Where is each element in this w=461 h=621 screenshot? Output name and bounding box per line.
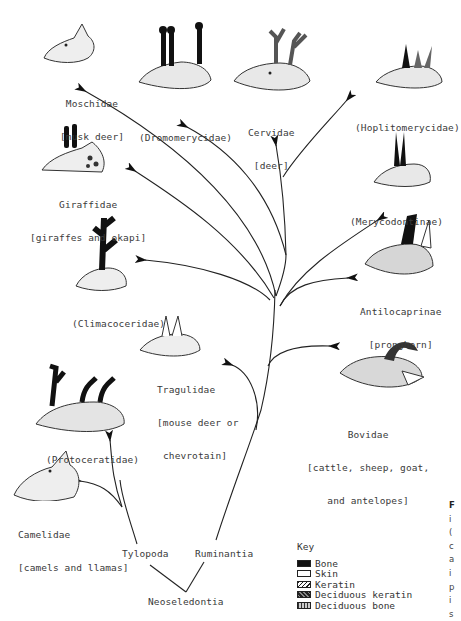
taxon-name: Moschidae [60,98,124,109]
taxon-camelidae: Camelidae [camels and llamas] [18,507,129,595]
taxon-cervidae: Cervidae [deer] [248,105,295,193]
protoceratidae-head-illustration [34,362,130,434]
taxon-name: Bovidae [307,429,429,440]
taxon-common-name: [pronghorn] [360,339,441,350]
dromomerycidae-head-illustration [133,22,217,94]
legend-item-keratin: Keratin [297,579,412,590]
skin-swatch-icon [297,570,311,577]
taxon-name: Cervidae [248,127,295,138]
caption-fragment: ( [449,526,455,540]
deciduous-keratin-swatch-icon [297,591,311,598]
deciduous-bone-swatch-icon [297,602,311,609]
taxon-merycodontinae: (Merycodontinae) [350,194,443,249]
legend: Key Bone Skin Keratin Deciduous keratin … [297,541,412,611]
taxon-hoplitomerycidae: (Hoplitomerycidae) [355,100,460,155]
taxon-dromomerycidae: (Dromomerycidae) [139,110,232,165]
taxon-common-name: [camels and llamas] [18,562,129,573]
taxon-giraffidae: Giraffidae [giraffes and okapi] [30,177,146,265]
taxon-common-name-cont: chevrotain] [157,450,238,461]
taxon-common-name: [mouse deer or [157,417,238,428]
keratin-swatch-icon [297,581,311,588]
legend-label: Skin [315,568,338,579]
legend-item-skin: Skin [297,569,412,580]
caption-fragment: c [449,540,455,554]
legend-label: Deciduous bone [315,600,395,611]
taxon-name: Tragulidae [157,384,238,395]
taxon-tragulidae: Tragulidae [mouse deer or chevrotain] [157,362,238,483]
branch-root-ruminantia [186,562,204,592]
branch-bovidae [268,346,330,366]
taxon-name: Antilocaprinae [360,306,441,317]
taxon-name: (Hoplitomerycidae) [355,122,460,133]
taxon-name: Camelidae [18,529,129,540]
taxon-common-name-cont: and antelopes] [307,495,429,506]
taxon-moschidae: Moschidae [musk deer] [60,76,124,164]
taxon-common-name: [deer] [248,160,295,171]
caption-fragment: i [449,513,455,527]
caption-fragment: a [449,553,455,567]
taxon-common-name: [cattle, sheep, goat, [307,462,429,473]
truncated-caption: F i ( c a i p i s [449,499,455,621]
taxon-name: Giraffidae [30,199,146,210]
branch-antilocaprinae [280,278,348,306]
taxon-climacoceridae: (Climacoceridae) [72,296,165,351]
legend-label: Deciduous keratin [315,589,412,600]
cervidae-head-illustration [232,25,312,97]
node-tylopoda: Tylopoda [122,548,169,559]
legend-label: Bone [315,558,338,569]
taxon-antilocaprinae: Antilocaprinae [pronghorn] [360,284,441,372]
hoplitomerycidae-head-illustration [372,40,446,90]
taxon-bovidae: Bovidae [cattle, sheep, goat, and antelo… [307,407,429,528]
legend-label: Keratin [315,579,355,590]
caption-fragment: s [449,608,455,621]
legend-item-deciduous-bone: Deciduous bone [297,600,412,611]
caption-fragment: p [449,581,455,595]
caption-fragment: F [449,499,455,513]
bone-swatch-icon [297,560,311,567]
caption-fragment: i [449,567,455,581]
taxon-name: (Merycodontinae) [350,216,443,227]
branch-root-tylopoda [150,565,186,592]
taxon-name: (Protoceratidae) [46,454,139,465]
legend-item-deciduous-keratin: Deciduous keratin [297,590,412,601]
taxon-common-name: [musk deer] [60,131,124,142]
taxon-name: (Climacoceridae) [72,318,165,329]
moschidae-head-illustration [38,18,100,66]
legend-title: Key [297,541,412,552]
node-neoseledontia: Neoseledontia [148,596,224,607]
taxon-protoceratidae: (Protoceratidae) [46,432,139,487]
taxon-common-name: [giraffes and okapi] [30,232,146,243]
caption-fragment: i [449,594,455,608]
taxon-name: (Dromomerycidae) [139,132,232,143]
legend-item-bone: Bone [297,558,412,569]
node-ruminantia: Ruminantia [195,548,253,559]
